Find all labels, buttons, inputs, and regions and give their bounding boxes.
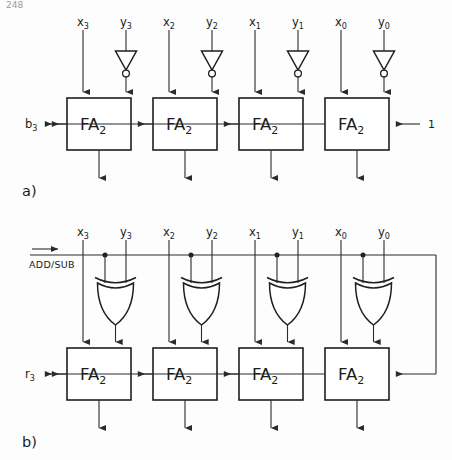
input-label-b-x0: x0 <box>335 225 347 241</box>
control-line-label: ADD/SUB <box>29 259 75 270</box>
input-label-b-x3: x3 <box>77 225 89 241</box>
input-label-b-x2: x2 <box>163 225 175 241</box>
input-label-y1: y1 <box>292 15 304 31</box>
input-label-b-y3: y3 <box>120 225 132 241</box>
panel-a-stage-1 <box>153 30 223 178</box>
input-label-y2: y2 <box>206 15 218 31</box>
input-label-x2: x2 <box>163 15 175 31</box>
input-label-b-y0: y0 <box>378 225 390 241</box>
panel-b: x3 y3 x2 y2 x1 y1 x0 y0 <box>22 225 436 450</box>
figure-canvas: 248 <box>0 0 452 460</box>
output-label-b3: b3 <box>25 117 37 133</box>
panel-a-stage-0 <box>67 30 137 178</box>
panel-a: x3 y3 x2 y2 x1 y1 x0 y0 <box>22 15 435 199</box>
panel-b-stage-3 <box>325 240 394 428</box>
panel-b-stage-2 <box>239 240 308 428</box>
input-label-x1: x1 <box>249 15 261 31</box>
panel-a-stage-2 <box>239 30 309 178</box>
input-label-x3: x3 <box>77 15 89 31</box>
page-number: 248 <box>6 0 23 10</box>
input-label-b-y2: y2 <box>206 225 218 241</box>
panel-caption-a: a) <box>22 183 37 199</box>
output-label-r3: r3 <box>25 367 35 383</box>
input-label-b-y1: y1 <box>292 225 304 241</box>
input-label-y0: y0 <box>378 15 390 31</box>
panel-b-stage-1 <box>153 240 222 428</box>
input-label-x0: x0 <box>335 15 347 31</box>
input-label-b-x1: x1 <box>249 225 261 241</box>
panel-b-stage-0 <box>67 240 136 428</box>
input-label-y3: y3 <box>120 15 132 31</box>
panel-caption-b: b) <box>22 434 37 450</box>
carry-in-label-one: 1 <box>428 118 435 131</box>
panel-a-stage-3 <box>325 30 395 178</box>
